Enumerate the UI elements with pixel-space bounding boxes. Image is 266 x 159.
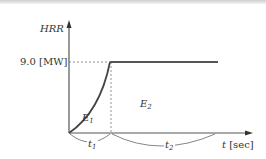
region-e2-label: E2 [140, 99, 152, 111]
x-axis-label: t [sec] [222, 140, 254, 150]
plateau-value-label: 9.0 [MW] [20, 57, 67, 67]
y-axis-label: HRR [40, 24, 64, 34]
region-e1-label: E1 [82, 113, 94, 125]
interval-t2-label: t2 [164, 140, 175, 152]
interval-t1-label: t1 [87, 139, 98, 151]
y-axis-arrow-icon [67, 20, 72, 28]
x-axis-arrow-icon [245, 131, 253, 136]
